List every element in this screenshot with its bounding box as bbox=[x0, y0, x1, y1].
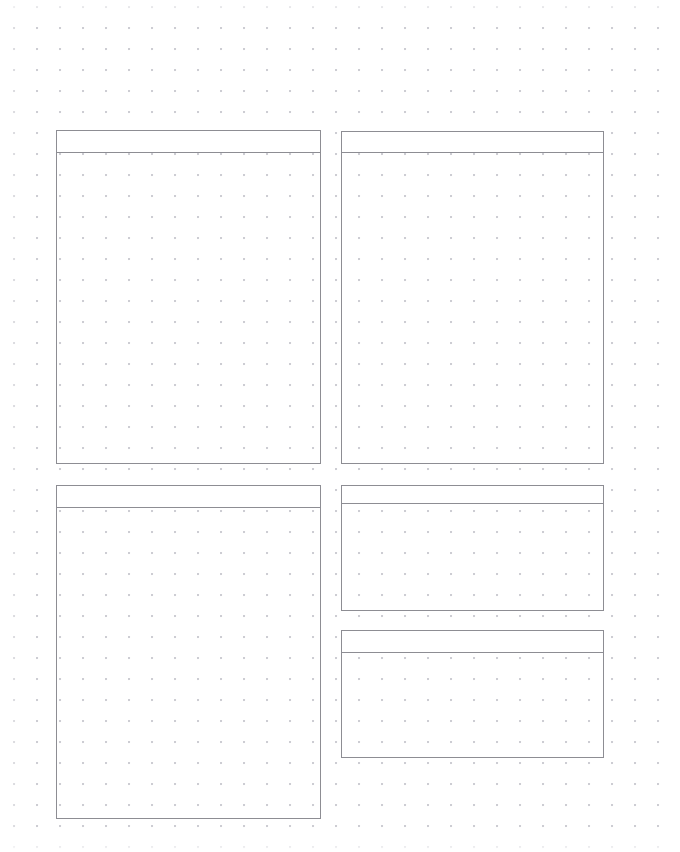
panel-bottom-right-body-label bbox=[342, 651, 358, 675]
panel-bottom-right-header[interactable] bbox=[342, 631, 603, 653]
panel-top-right-body-label bbox=[342, 151, 358, 175]
panel-top-left-header[interactable] bbox=[57, 131, 320, 153]
panel-bottom-left[interactable] bbox=[56, 485, 321, 819]
panel-top-left-body-label bbox=[57, 151, 73, 175]
panel-bottom-left-header[interactable] bbox=[57, 486, 320, 508]
wireframe-canvas bbox=[0, 0, 680, 852]
panel-bottom-right[interactable] bbox=[341, 630, 604, 758]
panel-top-right-body[interactable] bbox=[342, 153, 603, 463]
panel-bottom-right-body[interactable] bbox=[342, 653, 603, 757]
panel-middle-right-body-label bbox=[342, 502, 358, 526]
panel-top-left[interactable] bbox=[56, 130, 321, 464]
panel-bottom-left-body-label bbox=[57, 506, 73, 530]
panel-middle-right-header[interactable] bbox=[342, 486, 603, 504]
panel-bottom-left-body[interactable] bbox=[57, 508, 320, 818]
panel-middle-right-body[interactable] bbox=[342, 504, 603, 610]
panel-top-left-body[interactable] bbox=[57, 153, 320, 463]
panel-top-right[interactable] bbox=[341, 131, 604, 464]
panel-middle-right[interactable] bbox=[341, 485, 604, 611]
panel-top-right-header[interactable] bbox=[342, 132, 603, 153]
